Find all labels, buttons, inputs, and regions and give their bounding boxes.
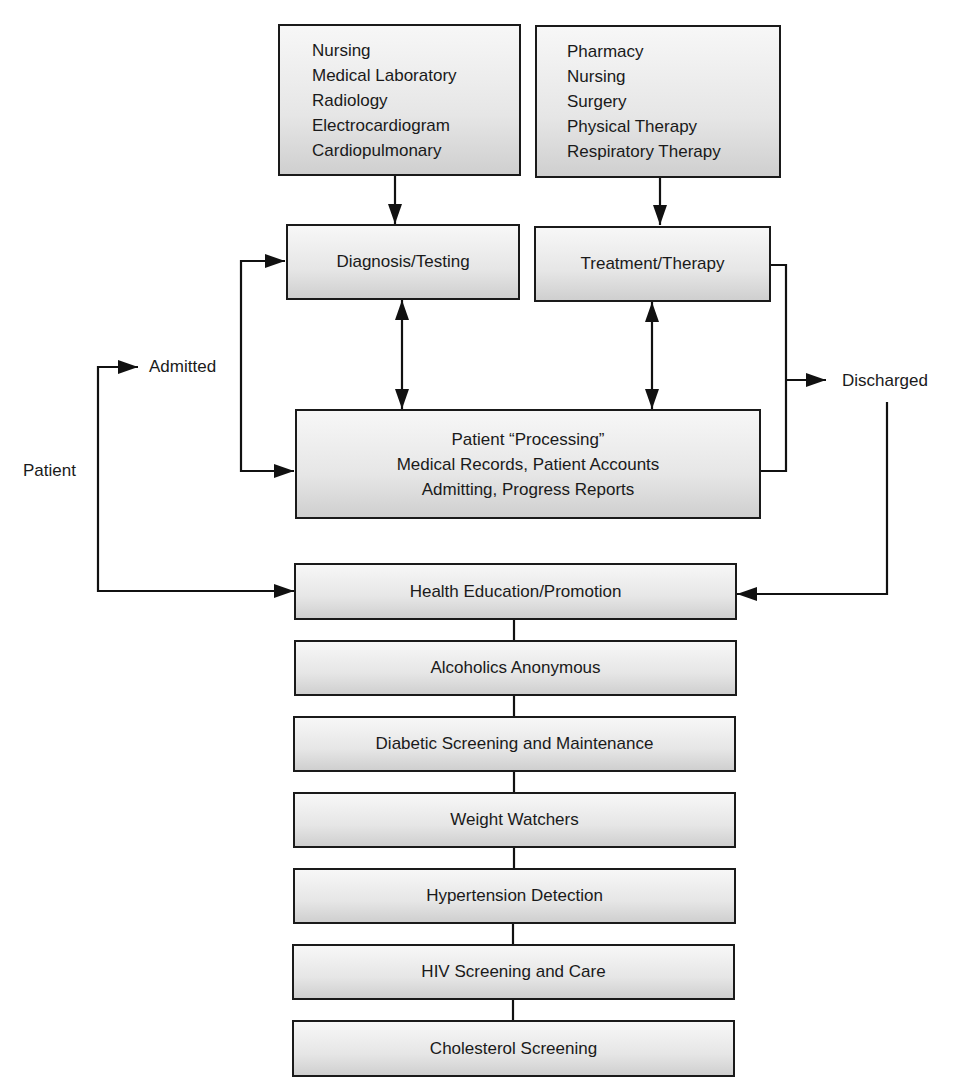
admitted-label: Admitted <box>149 357 216 377</box>
dept-item: Radiology <box>312 88 388 113</box>
treatment-therapy-label: Treatment/Therapy <box>581 254 725 274</box>
treatment-therapy-box: Treatment/Therapy <box>534 226 771 302</box>
dept-item: Medical Laboratory <box>312 63 457 88</box>
program-box-weight-watchers: Weight Watchers <box>293 792 736 848</box>
diagnostic-departments-box: Nursing Medical Laboratory Radiology Ele… <box>278 24 521 176</box>
program-label: Cholesterol Screening <box>430 1039 597 1059</box>
dept-item: Nursing <box>567 64 626 89</box>
program-label: Health Education/Promotion <box>410 582 622 602</box>
program-label: Alcoholics Anonymous <box>430 658 600 678</box>
program-box-health-education: Health Education/Promotion <box>294 563 737 620</box>
therapeutic-departments-box: Pharmacy Nursing Surgery Physical Therap… <box>535 25 781 178</box>
dept-item: Physical Therapy <box>567 114 697 139</box>
program-label: Diabetic Screening and Maintenance <box>376 734 654 754</box>
program-label: Weight Watchers <box>450 810 579 830</box>
diagnosis-testing-box: Diagnosis/Testing <box>286 224 520 300</box>
patient-processing-title: Patient “Processing” <box>451 427 604 452</box>
discharged-label: Discharged <box>842 371 928 391</box>
program-label: Hypertension Detection <box>426 886 603 906</box>
diagnosis-testing-label: Diagnosis/Testing <box>336 252 469 272</box>
patient-processing-box: Patient “Processing” Medical Records, Pa… <box>295 409 761 519</box>
patient-processing-line: Medical Records, Patient Accounts <box>397 452 660 477</box>
dept-item: Surgery <box>567 89 627 114</box>
dept-item: Electrocardiogram <box>312 113 450 138</box>
program-label: HIV Screening and Care <box>421 962 605 982</box>
patient-processing-line: Admitting, Progress Reports <box>422 477 635 502</box>
program-box-cholesterol-screening: Cholesterol Screening <box>292 1020 735 1077</box>
program-box-alcoholics-anonymous: Alcoholics Anonymous <box>294 640 737 696</box>
dept-item: Nursing <box>312 38 371 63</box>
program-box-hypertension-detection: Hypertension Detection <box>293 868 736 924</box>
dept-item: Respiratory Therapy <box>567 139 721 164</box>
patient-label: Patient <box>23 461 76 481</box>
program-box-hiv-screening: HIV Screening and Care <box>292 944 735 1000</box>
dept-item: Pharmacy <box>567 39 644 64</box>
program-box-diabetic-screening: Diabetic Screening and Maintenance <box>293 716 736 772</box>
dept-item: Cardiopulmonary <box>312 138 441 163</box>
